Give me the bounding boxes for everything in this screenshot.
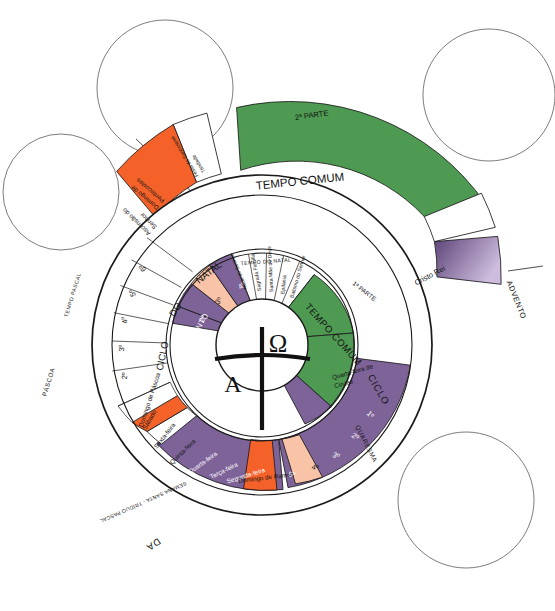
- liturgical-year-wheel: 2ª PARTE 1ª PARTE TEMPO COMUM Cristo Rei…: [0, 0, 555, 611]
- callout-bottom-right[interactable]: [398, 432, 534, 568]
- center-alpha: A: [224, 371, 242, 397]
- callout-top-right[interactable]: [423, 29, 555, 161]
- label-tempo-pascal: TEMPO PASCAL: [63, 272, 82, 318]
- label-da: DA: [144, 536, 163, 554]
- leader-line-advento: [508, 266, 543, 271]
- label-pascal-3: 3º: [117, 344, 126, 352]
- outer-seg-advento[interactable]: [434, 236, 501, 284]
- center-omega: Ω: [269, 330, 288, 357]
- label-outer-advento: ADVENTO: [505, 279, 529, 320]
- label-pascoa: PÁSCOA: [40, 366, 56, 397]
- label-quaresma-5: 5º: [288, 470, 296, 479]
- label-semana-santa: SEMANA SANTA - TRÍDUO PASCAL: [99, 481, 187, 525]
- label-pascal-2: 2º: [120, 372, 130, 380]
- callout-top-left[interactable]: [3, 134, 119, 250]
